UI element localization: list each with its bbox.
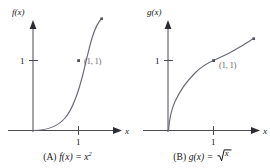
point-marker-b [212, 59, 215, 62]
caption-a-label: (A) [43, 152, 57, 162]
graph-b-svg: g(x) x 1 1 (1, 1) [135, 0, 270, 145]
caption-a: (A) f(x) = x2 [0, 150, 135, 162]
y-axis-arrowhead-a [30, 20, 37, 29]
y-axis-label-b: g(x) [147, 7, 162, 17]
x-tick-label-b: 1 [211, 137, 216, 145]
graph-a-svg: f(x) x 1 1 (1, 1) [0, 0, 135, 145]
radical-icon: x [216, 147, 232, 160]
point-label-b: (1, 1) [219, 61, 237, 70]
point-label-a: (1, 1) [84, 57, 102, 66]
x-axis-arrowhead-a [113, 127, 122, 134]
x-axis-arrowhead-b [251, 127, 260, 134]
curve-g-sqrt-x [169, 39, 254, 131]
curve-b-endpoint [252, 37, 255, 40]
y-tick-label-b: 1 [155, 56, 160, 66]
caption-b: (B) g(x) = x [135, 147, 270, 162]
panel-a: f(x) x 1 1 (1, 1) (A) f(x) = x2 [0, 0, 135, 168]
caption-a-function: f(x) = x [59, 152, 88, 162]
y-tick-label-a: 1 [20, 56, 25, 66]
curve-f-x-squared [33, 19, 102, 131]
caption-b-function: g(x) = [189, 152, 216, 162]
caption-b-radicand: x [225, 148, 229, 158]
y-axis-arrowhead-b [165, 20, 172, 29]
point-marker-a [77, 59, 80, 62]
y-axis-label-a: f(x) [12, 7, 25, 17]
panel-b: g(x) x 1 1 (1, 1) (B) g(x) = x [135, 0, 270, 168]
caption-b-label: (B) [173, 152, 186, 162]
x-axis-label-b: x [262, 126, 267, 136]
x-tick-label-a: 1 [76, 137, 81, 145]
x-axis-label-a: x [124, 126, 129, 136]
figure-two-graphs: f(x) x 1 1 (1, 1) (A) f(x) = x2 [0, 0, 270, 168]
caption-a-exponent: 2 [89, 150, 92, 157]
curve-a-endpoint [100, 17, 103, 20]
